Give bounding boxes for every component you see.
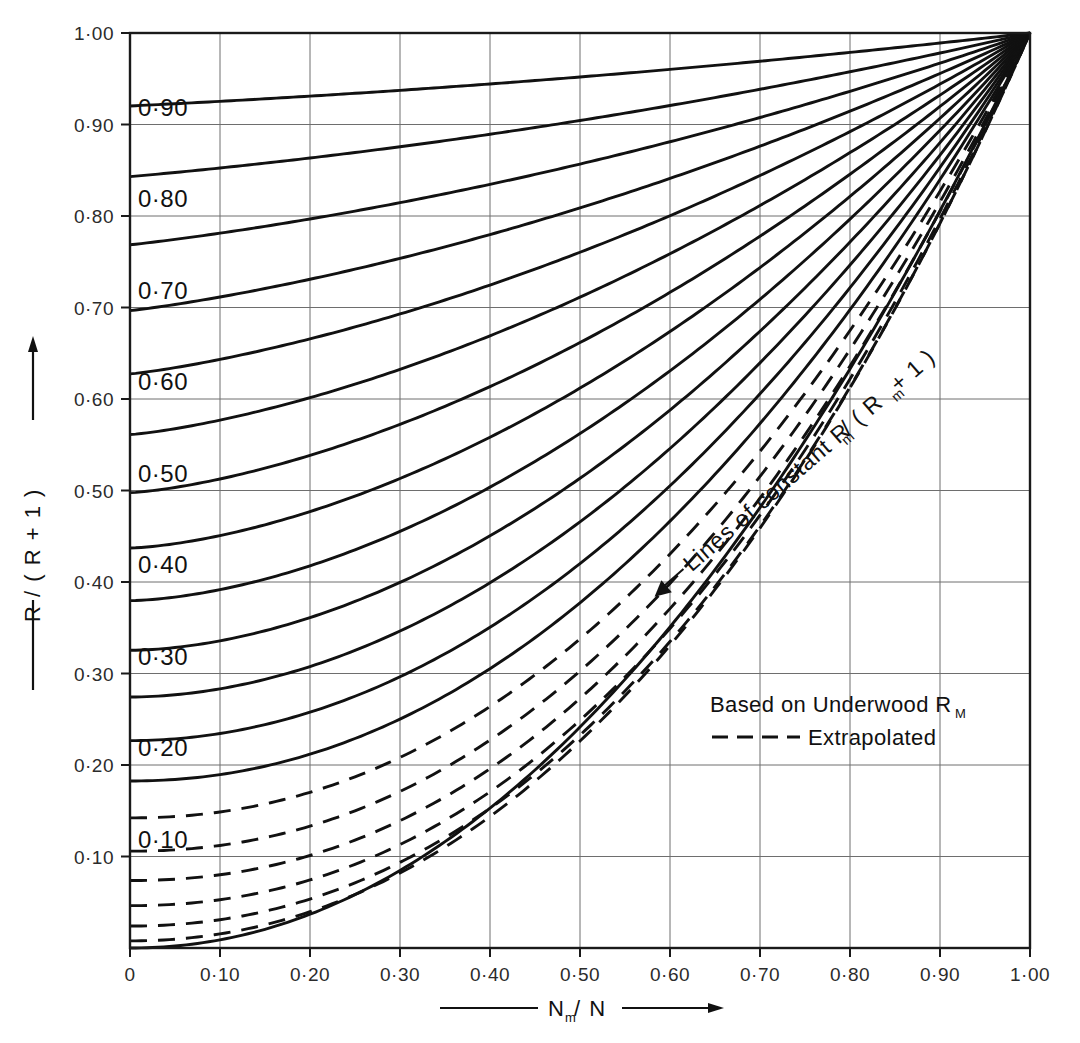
x-tick-label: 0·10 bbox=[200, 964, 240, 985]
x-tick-label: 1·00 bbox=[1010, 964, 1050, 985]
y-tick-label: 1·00 bbox=[74, 23, 114, 44]
y-tick-label: 0·40 bbox=[74, 572, 114, 593]
y-tick-label: 0·80 bbox=[74, 206, 114, 227]
y-tick-label: 0·50 bbox=[74, 481, 114, 502]
curve-value-label: 0·30 bbox=[138, 643, 188, 670]
y-tick-label: 0·60 bbox=[74, 389, 114, 410]
legend-underwood-label: Based on Underwood R bbox=[710, 692, 952, 717]
y-tick-label: 0·30 bbox=[74, 664, 114, 685]
curve-labels-group: 0·100·200·300·400·500·600·700·800·90 bbox=[138, 94, 188, 853]
curve-value-label: 0·40 bbox=[138, 551, 188, 578]
curve-value-label: 0·20 bbox=[138, 734, 188, 761]
chart-root: 00·100·200·300·400·500·600·700·800·901·0… bbox=[0, 0, 1080, 1043]
x-tick-label: 0·20 bbox=[290, 964, 330, 985]
chart-background bbox=[0, 0, 1080, 1043]
curve-value-label: 0·90 bbox=[138, 94, 188, 121]
curve-value-label: 0·80 bbox=[138, 185, 188, 212]
x-tick-label: 0 bbox=[124, 964, 135, 985]
curve-value-label: 0·70 bbox=[138, 277, 188, 304]
x-axis-title-rest: / N bbox=[574, 996, 607, 1021]
legend-extrapolated-label: Extrapolated bbox=[808, 725, 936, 750]
curve-value-label: 0·10 bbox=[138, 826, 188, 853]
y-tick-label: 0·10 bbox=[74, 847, 114, 868]
x-tick-label: 0·80 bbox=[830, 964, 870, 985]
curve-value-label: 0·60 bbox=[138, 368, 188, 395]
x-axis-title-main: N bbox=[548, 996, 565, 1021]
y-tick-label: 0·70 bbox=[74, 298, 114, 319]
x-tick-label: 0·40 bbox=[470, 964, 510, 985]
x-tick-label: 0·50 bbox=[560, 964, 600, 985]
x-tick-label: 0·90 bbox=[920, 964, 960, 985]
x-tick-label: 0·70 bbox=[740, 964, 780, 985]
legend-underwood-subscript: M bbox=[955, 706, 966, 721]
y-tick-label: 0·90 bbox=[74, 115, 114, 136]
gilliland-correlation-chart: 00·100·200·300·400·500·600·700·800·901·0… bbox=[0, 0, 1080, 1043]
curve-value-label: 0·50 bbox=[138, 460, 188, 487]
x-tick-label: 0·30 bbox=[380, 964, 420, 985]
x-tick-label: 0·60 bbox=[650, 964, 690, 985]
y-tick-label: 0·20 bbox=[74, 755, 114, 776]
